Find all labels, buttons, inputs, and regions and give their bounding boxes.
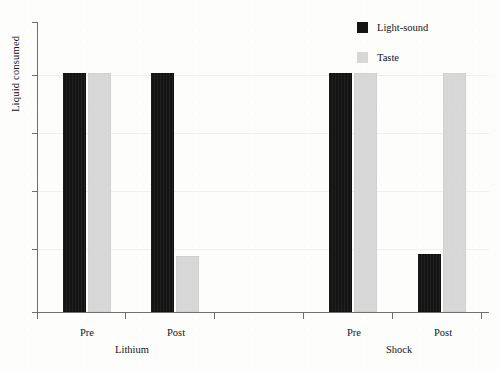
bar-chart-figure: Liquid consumed Pre Post Pre Post Lithiu… [0, 0, 499, 371]
x-axis-line [37, 312, 489, 313]
y-axis-tick [32, 75, 38, 76]
x-group-label-lithium: Lithium [115, 344, 149, 355]
x-group-label-shock: Shock [386, 344, 412, 355]
legend-label-taste: Taste [377, 52, 399, 63]
bar-lithium-post-light-sound [151, 73, 174, 312]
y-axis-title: Liquid consumed [10, 36, 21, 112]
y-axis-tick [32, 249, 38, 250]
x-axis-tick [392, 313, 393, 319]
y-axis-tick [32, 133, 38, 134]
legend-swatch-icon-taste [357, 52, 368, 63]
x-axis-tick [303, 313, 304, 319]
x-tick-label-lithium-post: Post [167, 327, 185, 338]
bar-shock-post-light-sound [418, 254, 441, 312]
bar-lithium-pre-taste [88, 73, 111, 312]
bar-shock-pre-light-sound [329, 73, 352, 312]
bar-lithium-pre-light-sound [63, 73, 86, 312]
x-axis-tick [125, 313, 126, 319]
y-axis-line [37, 22, 38, 313]
x-tick-label-lithium-pre: Pre [80, 327, 94, 338]
x-axis-tick [37, 313, 38, 319]
legend-label-light-sound: Light-sound [377, 22, 428, 33]
x-axis-tick [214, 313, 215, 319]
bar-lithium-post-taste [176, 256, 199, 312]
legend-item-light-sound: Light-sound [357, 21, 428, 34]
x-axis-tick [481, 313, 482, 319]
bar-shock-post-taste [443, 73, 466, 312]
x-tick-label-shock-pre: Pre [347, 327, 361, 338]
y-axis-tick [32, 22, 38, 23]
y-axis-tick [32, 191, 38, 192]
x-tick-label-shock-post: Post [434, 327, 452, 338]
bar-shock-pre-taste [354, 73, 377, 312]
legend: Light-sound Taste [357, 21, 428, 81]
legend-swatch-icon-light-sound [357, 22, 368, 33]
legend-item-taste: Taste [357, 51, 428, 64]
